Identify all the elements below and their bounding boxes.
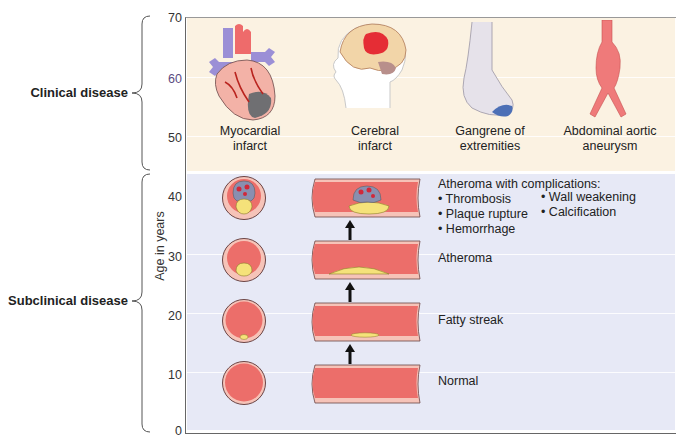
stage-label-atheroma: Atheroma xyxy=(438,251,492,266)
phase-label-clinical: Clinical disease xyxy=(0,85,128,100)
caption-line: infarct xyxy=(200,139,300,154)
y-axis-title: Age in years xyxy=(153,201,167,291)
complication-item: • Hemorrhage xyxy=(438,222,528,237)
cross-section-atheroma-icon xyxy=(221,237,267,283)
caption-line: Cerebral xyxy=(325,124,425,139)
heart-infarct-icon xyxy=(205,22,280,122)
aortic-aneurysm-icon xyxy=(582,20,632,120)
cross-section-complicated-icon xyxy=(221,175,267,221)
caption-cerebral-infarct: Cerebral infarct xyxy=(325,124,425,154)
tick-10: 10 xyxy=(160,368,182,382)
brace-subclinical-icon xyxy=(128,172,154,434)
arrow-up-icon xyxy=(344,344,356,364)
complication-item: • Wall weakening xyxy=(541,190,636,205)
gangrene-foot-icon xyxy=(460,22,520,122)
brace-clinical-icon xyxy=(128,14,154,172)
stage-label-normal: Normal xyxy=(438,374,478,389)
vessel-fatty-streak-icon xyxy=(309,302,423,342)
vessel-atheroma-icon xyxy=(309,240,423,280)
arrow-up-icon xyxy=(344,220,356,240)
stage-label-fatty-streak: Fatty streak xyxy=(438,313,503,328)
tick-0: 0 xyxy=(160,424,182,438)
complication-item: • Plaque rupture xyxy=(438,207,528,222)
tick-70: 70 xyxy=(160,11,182,25)
complication-item: • Calcification xyxy=(541,205,636,220)
caption-line: Gangrene of xyxy=(440,124,540,139)
brain-infarct-icon xyxy=(330,22,410,110)
caption-aortic-aneurysm: Abdominal aortic aneurysm xyxy=(555,124,665,154)
caption-line: extremities xyxy=(440,139,540,154)
tick-20: 20 xyxy=(160,309,182,323)
cross-section-fatty-streak-icon xyxy=(221,298,267,344)
tick-50: 50 xyxy=(160,131,182,145)
arrow-up-icon xyxy=(344,282,356,302)
caption-gangrene: Gangrene of extremities xyxy=(440,124,540,154)
caption-line: Myocardial xyxy=(200,124,300,139)
vessel-normal-icon xyxy=(309,364,423,404)
complications-col2: • Wall weakening • Calcification xyxy=(541,190,636,220)
phase-label-subclinical: Subclinical disease xyxy=(0,293,128,308)
cross-section-normal-icon xyxy=(221,360,267,406)
caption-line: aneurysm xyxy=(555,139,665,154)
complications-col1: • Thrombosis • Plaque rupture • Hemorrha… xyxy=(438,192,528,237)
caption-line: infarct xyxy=(325,139,425,154)
tick-60: 60 xyxy=(160,72,182,86)
complication-item: • Thrombosis xyxy=(438,192,528,207)
caption-myocardial-infarct: Myocardial infarct xyxy=(200,124,300,154)
caption-line: Abdominal aortic xyxy=(555,124,665,139)
vessel-complicated-icon xyxy=(309,178,423,218)
